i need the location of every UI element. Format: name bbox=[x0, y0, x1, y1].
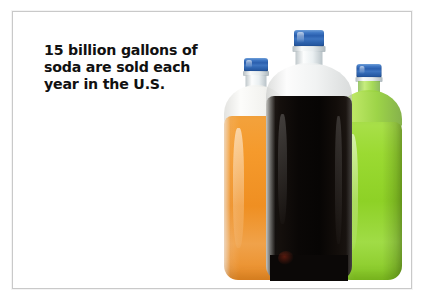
soda-fact-poster: 15 billion gallons of soda are sold each… bbox=[0, 0, 425, 302]
page-title: 15 billion gallons of soda are sold each… bbox=[44, 42, 222, 92]
blue-bottle-cap bbox=[357, 64, 382, 78]
blue-bottle-cap bbox=[294, 30, 324, 47]
blue-bottle-cap bbox=[244, 58, 268, 72]
soda-bottle-photo bbox=[218, 24, 404, 280]
petaloid-bottle-base bbox=[270, 255, 348, 281]
cola-bottle bbox=[266, 30, 352, 280]
bottle-highlight-right bbox=[335, 116, 342, 244]
